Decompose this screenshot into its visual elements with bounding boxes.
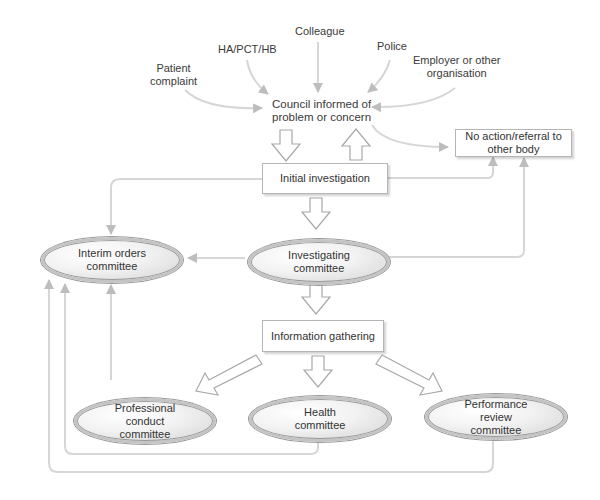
node-label: Health committee bbox=[295, 406, 346, 432]
node-initial-investigation: Initial investigation bbox=[262, 163, 388, 194]
arrow-patient-to-council bbox=[185, 90, 262, 108]
node-performance-review: Performance review committee bbox=[425, 394, 567, 440]
source-label: Police bbox=[377, 40, 407, 52]
arrow-employer-to-council bbox=[372, 88, 455, 107]
arrow-ha-to-council bbox=[247, 60, 268, 94]
node-label: Council informed of problem or concern bbox=[272, 98, 371, 123]
arrow-investigating-to-noaction bbox=[388, 158, 524, 257]
node-label: Professional conduct committee bbox=[115, 402, 176, 441]
block-arrow-info-to-performance bbox=[376, 355, 442, 395]
node-label: No action/referral to other body bbox=[465, 130, 562, 156]
source-ha-pct-hb: HA/PCT/HB bbox=[218, 43, 277, 56]
source-colleague: Colleague bbox=[295, 25, 345, 38]
block-arrow-info-to-health bbox=[304, 356, 332, 387]
node-information-gathering: Information gathering bbox=[262, 320, 384, 352]
source-police: Police bbox=[377, 40, 407, 53]
block-arrow-initial-to-council bbox=[342, 129, 370, 160]
block-arrow-investigating-to-info bbox=[302, 283, 330, 314]
arrow-initial-to-noaction bbox=[387, 157, 493, 178]
source-label: Employer or other organisation bbox=[413, 54, 500, 79]
arrow-initial-to-interim bbox=[111, 179, 262, 234]
source-label: Colleague bbox=[295, 25, 345, 37]
block-arrow-info-to-professional bbox=[196, 355, 262, 395]
node-label: Performance review committee bbox=[465, 398, 528, 437]
node-professional-conduct: Professional conduct committee bbox=[74, 398, 216, 444]
node-council: Council informed of problem or concern bbox=[272, 98, 371, 124]
node-label: Initial investigation bbox=[280, 172, 370, 185]
node-interim-orders: Interim orders committee bbox=[41, 237, 183, 283]
arrow-performance-to-interim bbox=[49, 280, 493, 472]
block-arrow-council-to-initial bbox=[272, 130, 300, 161]
node-no-action: No action/referral to other body bbox=[455, 129, 572, 157]
node-label: Interim orders committee bbox=[78, 247, 146, 273]
source-employer: Employer or other organisation bbox=[413, 54, 500, 80]
node-health: Health committee bbox=[249, 396, 391, 442]
node-investigating: Investigating committee bbox=[248, 239, 390, 285]
block-arrow-initial-to-investigating bbox=[302, 198, 330, 229]
arrow-council-to-noaction bbox=[372, 125, 448, 147]
source-label: HA/PCT/HB bbox=[218, 43, 277, 55]
node-label: Information gathering bbox=[271, 330, 375, 343]
source-label: Patient complaint bbox=[150, 62, 197, 87]
source-patient-complaint: Patient complaint bbox=[150, 62, 197, 88]
node-label: Investigating committee bbox=[288, 249, 350, 275]
arrow-police-to-council bbox=[368, 60, 390, 92]
